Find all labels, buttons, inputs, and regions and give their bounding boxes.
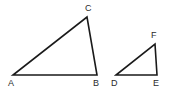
geometry-figure: A B C D E F [0,0,175,91]
vertex-label-c: C [85,3,92,13]
triangles-canvas: A B C D E F [0,0,175,91]
vertex-label-b: B [93,78,99,88]
vertex-label-e: E [153,78,159,88]
vertex-label-a: A [8,78,14,88]
vertex-label-f: F [151,30,157,40]
figure-background [0,0,175,91]
vertex-label-d: D [111,78,118,88]
